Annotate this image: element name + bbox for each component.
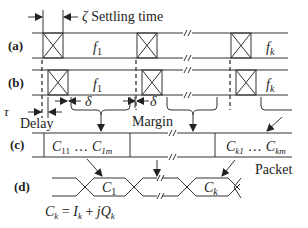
symbol-arrows [87,159,235,176]
delta-symbol-1: δ [85,94,92,109]
row-d-label: (d) [14,179,30,194]
settling-time-dimension [28,10,78,33]
tau-symbol: τ [4,104,10,119]
freq-label-a-last: fk [266,40,275,57]
symbol-equation: Ck = Ik + jQk [45,204,116,221]
margin-label: Margin [132,114,173,129]
freq-label-b-last: fk [266,77,275,94]
brace-arrows [101,115,282,131]
delay-label: Delay [20,116,53,131]
timing-diagram: (a) (b) (c) (d) ζ Settling time f1 fk f1… [0,0,308,228]
freq-label-b-first: f1 [93,77,102,94]
delay-reference-lines [42,60,230,118]
row-b-label: (b) [8,75,24,90]
row-c-label: (c) [10,137,24,152]
row-a-label: (a) [8,38,23,53]
delta-dimensions [55,97,149,108]
settling-time-label: ζ Settling time [82,9,163,24]
freq-label-a-first: f1 [93,40,102,57]
packet-braces [71,97,292,115]
packet-label: Packet [255,162,292,177]
row-b-signal [32,67,288,98]
symbol-c1: C1 [102,180,116,197]
delta-symbol-2: δ [150,94,157,109]
packet-last-contents: Ck1…Ckm [226,139,286,156]
packet-first-contents: C11…C1m [52,139,113,156]
symbol-ck: Ck [204,180,218,197]
row-a-signal [32,30,288,61]
